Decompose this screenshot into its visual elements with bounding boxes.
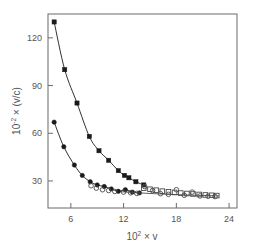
x-axis-ticks: 6121824 — [68, 203, 234, 224]
y-tick-label: 30 — [32, 176, 42, 186]
data-point-filled-square — [107, 158, 111, 162]
y-axis-label: 10-2 × (v/c) — [10, 87, 22, 135]
y-axis-label-base: 10 — [11, 123, 22, 135]
plot-frame — [48, 14, 237, 208]
data-point-filled-square — [116, 169, 120, 173]
x-tick-label: 12 — [119, 214, 129, 224]
y-tick-label: 60 — [32, 128, 42, 138]
data-point-filled-circle — [52, 120, 56, 124]
y-tick-label: 120 — [27, 33, 42, 43]
data-point-open-circle — [89, 183, 94, 188]
data-point-filled-square — [75, 101, 79, 105]
x-axis-label-text: 102 × v — [126, 230, 157, 242]
y-axis-ticks: 306090120 — [27, 33, 53, 186]
y-tick-label: 90 — [32, 81, 42, 91]
series-line — [54, 122, 139, 193]
data-point-filled-square — [87, 134, 91, 138]
series-tail-open-squares — [142, 186, 220, 198]
data-point-filled-square — [63, 68, 67, 72]
y-axis-label-text: 10-2 × (v/c) — [10, 87, 22, 135]
y-axis-label-rest: × (v/c) — [11, 87, 22, 118]
chart-figure: 6121824 306090120 102 × v 10-2 × (v/c) — [0, 0, 253, 249]
data-point-filled-square — [134, 180, 138, 184]
data-point-filled-circle — [72, 163, 76, 167]
series-lower-branch-filled-circles — [52, 120, 142, 195]
x-tick-label: 18 — [171, 214, 181, 224]
series-line — [54, 22, 144, 185]
x-tick-label: 24 — [224, 214, 234, 224]
series-tail-open-circles — [89, 183, 218, 198]
data-point-filled-square — [97, 149, 101, 153]
x-axis-label-base: 10 — [126, 231, 138, 242]
x-axis-label: 102 × v — [126, 230, 157, 242]
data-point-filled-circle — [80, 173, 84, 177]
data-series-layer — [52, 20, 219, 199]
series-upper-branch-filled-squares — [52, 20, 146, 187]
data-point-filled-square — [122, 173, 126, 177]
chart-svg: 6121824 306090120 102 × v 10-2 × (v/c) — [0, 0, 253, 249]
data-point-filled-square — [127, 176, 131, 180]
x-tick-label: 6 — [68, 214, 73, 224]
data-point-filled-circle — [62, 145, 66, 149]
plot-border — [48, 14, 237, 208]
data-point-filled-square — [52, 20, 56, 24]
x-axis-label-rest: × v — [141, 231, 157, 242]
